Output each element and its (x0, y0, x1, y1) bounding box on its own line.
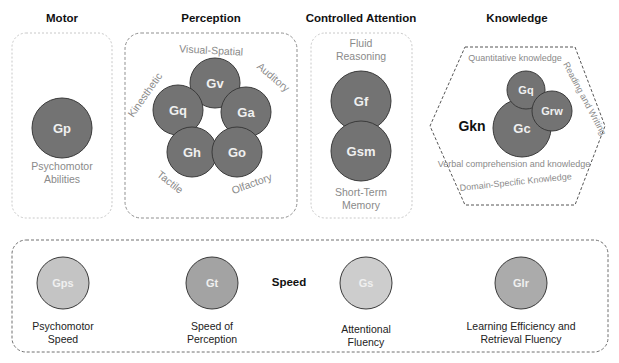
gkn-code: Gkn (458, 118, 485, 134)
ga-code: Ga (237, 105, 255, 120)
grw-code: Grw (541, 105, 563, 117)
gf-label-line1: Fluid (350, 37, 373, 49)
verbal-comprehension-label: Verbal comprehension and knowledge (438, 159, 591, 169)
knowledge-group: Quantitative knowledge Reading and Writi… (430, 47, 608, 205)
motor-header: Motor (46, 12, 78, 24)
ability-gs: Gs (340, 257, 392, 309)
ability-gps: Gps (37, 257, 89, 309)
gq-knowledge-code: Gq (518, 84, 533, 96)
gt-code: Gt (206, 277, 219, 289)
gq-perception-code: Gq (169, 103, 187, 118)
gsm-label-line1: Short-Term (335, 186, 387, 198)
gh-code: Gh (183, 145, 201, 160)
go-code: Go (228, 145, 246, 160)
gv-code: Gv (206, 76, 224, 91)
gf-label-line2: Reasoning (336, 50, 386, 62)
gs-label-line2: Fluency (348, 336, 386, 348)
cognitive-abilities-diagram: Motor Perception Controlled Attention Kn… (0, 0, 619, 363)
ability-glr: Glr (495, 257, 547, 309)
perception-group: Visual-Spatial Auditory Kinesthetic Tact… (125, 33, 297, 218)
glr-label-line1: Learning Efficiency and (467, 320, 576, 332)
ability-go: Go (212, 127, 262, 177)
ability-gp: Gp (32, 98, 92, 158)
perception-header: Perception (181, 12, 240, 24)
gs-code: Gs (359, 277, 374, 289)
quantitative-knowledge-label: Quantitative knowledge (468, 53, 562, 63)
controlled-attention-header: Controlled Attention (306, 12, 417, 24)
gps-label-line1: Psychomotor (32, 320, 94, 332)
gsm-label-line2: Memory (342, 199, 381, 211)
ability-gsm: Gsm (331, 121, 391, 181)
gf-code: Gf (354, 94, 369, 109)
gps-code: Gps (52, 277, 73, 289)
ability-gh: Gh (167, 127, 217, 177)
glr-label-line2: Retrieval Fluency (480, 333, 562, 345)
ability-gt: Gt (186, 257, 238, 309)
ability-grw: Grw (532, 91, 572, 131)
gt-label-line1: Speed of (191, 320, 233, 332)
gp-label-line1: Psychomotor (31, 160, 93, 172)
gp-code: Gp (53, 121, 71, 136)
domain-specific-knowledge-label: Domain-Specific Knowledge (459, 171, 572, 193)
controlled-attention-group: Fluid Reasoning Gf Gsm Short-Term Memory (311, 33, 412, 218)
gsm-code: Gsm (347, 144, 376, 159)
motor-group: Gp Psychomotor Abilities (12, 33, 112, 218)
knowledge-header: Knowledge (486, 12, 547, 24)
speed-group: Speed Gps Psychomotor Speed Gt Speed of … (12, 240, 608, 352)
glr-code: Glr (513, 277, 530, 289)
gp-label-line2: Abilities (44, 173, 80, 185)
gt-label-line2: Perception (187, 333, 237, 345)
gs-label-line1: Attentional (341, 323, 391, 335)
visual-spatial-label: Visual-Spatial (179, 42, 244, 57)
gc-code: Gc (513, 121, 530, 136)
auditory-label: Auditory (255, 60, 293, 94)
gps-label-line2: Speed (48, 333, 79, 345)
speed-header: Speed (272, 276, 307, 288)
